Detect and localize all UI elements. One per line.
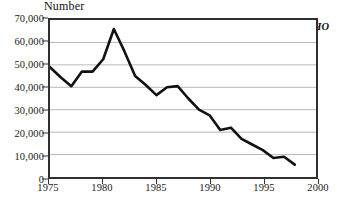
y-axis-tick-label: 10,000 [15, 151, 44, 162]
x-axis-tick-mark [264, 179, 265, 184]
y-axis-tick-label: 50,000 [15, 59, 44, 70]
x-axis-tick-mark [210, 179, 211, 184]
data-series-line [50, 20, 316, 177]
x-axis-tick-mark [102, 179, 103, 184]
y-axis-tick-label: 20,000 [15, 128, 44, 139]
chart-figure: Number Source: WHO 010,00020,00030,00040… [0, 0, 337, 206]
x-axis-tick-mark [48, 179, 49, 184]
chart-title: Number [44, 0, 85, 14]
series-line-number [50, 29, 295, 165]
plot-area [48, 18, 318, 179]
x-axis-tick-mark [318, 179, 319, 184]
y-axis-tick-label: 60,000 [15, 36, 44, 47]
y-axis-tick-label: 30,000 [15, 105, 44, 116]
x-axis-tick-mark [156, 179, 157, 184]
y-axis-tick-label: 40,000 [15, 82, 44, 93]
y-axis-tick-label: 70,000 [15, 13, 44, 24]
